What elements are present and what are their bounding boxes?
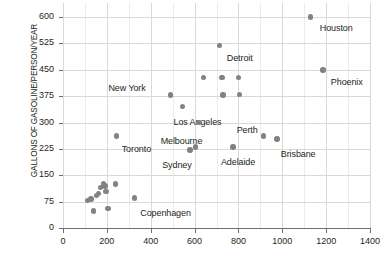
gridline-vertical bbox=[238, 3, 239, 228]
y-axis-tick bbox=[59, 70, 63, 71]
point-label-detroit: Detroit bbox=[227, 53, 253, 63]
data-point bbox=[105, 206, 110, 211]
data-point bbox=[220, 92, 225, 97]
y-axis-tick-label: 375 bbox=[24, 90, 54, 100]
x-axis-tick-label: 1400 bbox=[350, 236, 385, 246]
y-axis-tick bbox=[59, 17, 63, 18]
plot-area bbox=[63, 3, 370, 228]
gridline-horizontal bbox=[63, 96, 370, 97]
gridline-vertical bbox=[195, 3, 196, 228]
data-point-perth bbox=[261, 133, 266, 138]
data-point-sydney bbox=[187, 147, 192, 152]
x-axis-tick-label: 400 bbox=[131, 236, 171, 246]
x-axis-tick bbox=[195, 229, 196, 233]
y-axis-tick-label: 600 bbox=[24, 11, 54, 21]
x-axis-tick bbox=[107, 229, 108, 233]
x-axis-tick-label: 0 bbox=[43, 236, 83, 246]
x-axis-tick bbox=[63, 229, 64, 233]
gridline-vertical bbox=[260, 3, 261, 228]
data-point bbox=[88, 196, 93, 201]
data-point bbox=[102, 183, 107, 188]
point-label-new-york: New York bbox=[108, 83, 145, 93]
y-axis-tick bbox=[59, 43, 63, 44]
y-axis-tick-label: 0 bbox=[24, 222, 54, 232]
data-point bbox=[196, 120, 201, 125]
data-point-toronto bbox=[114, 133, 119, 138]
data-point bbox=[219, 75, 224, 80]
x-axis-tick bbox=[370, 229, 371, 233]
x-axis-tick bbox=[326, 229, 327, 233]
point-label-toronto: Toronto bbox=[122, 144, 151, 154]
y-axis-tick bbox=[59, 123, 63, 124]
gridline-vertical bbox=[304, 3, 305, 228]
data-point-phoenix bbox=[320, 67, 325, 72]
point-label-brisbane: Brisbane bbox=[281, 149, 316, 159]
data-point bbox=[113, 181, 118, 186]
gridline-vertical bbox=[85, 3, 86, 228]
x-axis-tick bbox=[238, 229, 239, 233]
x-axis-tick-label: 200 bbox=[87, 236, 127, 246]
gridline-vertical bbox=[173, 3, 174, 228]
point-label-perth: Perth bbox=[237, 125, 258, 135]
x-axis-tick-label: 600 bbox=[175, 236, 215, 246]
point-label-phoenix: Phoenix bbox=[331, 77, 363, 87]
gridline-vertical bbox=[63, 3, 64, 228]
gridline-horizontal bbox=[63, 175, 370, 176]
y-axis-tick-label: 300 bbox=[24, 117, 54, 127]
y-axis-tick bbox=[59, 175, 63, 176]
point-label-sydney: Sydney bbox=[162, 160, 191, 170]
gridline-vertical bbox=[151, 3, 152, 228]
y-axis-tick bbox=[59, 149, 63, 150]
data-point-new-york bbox=[168, 92, 173, 97]
x-axis-line bbox=[63, 228, 371, 229]
y-axis-tick-label: 225 bbox=[24, 143, 54, 153]
point-label-houston: Houston bbox=[320, 23, 353, 33]
data-point-adelaide bbox=[230, 144, 235, 149]
y-axis-tick-label: 150 bbox=[24, 169, 54, 179]
gridline-horizontal bbox=[63, 17, 370, 18]
data-point-copenhagen bbox=[132, 195, 137, 200]
x-axis-tick-label: 1200 bbox=[306, 236, 346, 246]
x-axis-tick bbox=[282, 229, 283, 233]
gridline-vertical bbox=[370, 3, 371, 228]
gridline-vertical bbox=[348, 3, 349, 228]
gridline-horizontal bbox=[63, 202, 370, 203]
y-axis-tick bbox=[59, 96, 63, 97]
y-axis-tick-label: 75 bbox=[24, 196, 54, 206]
x-axis-tick bbox=[151, 229, 152, 233]
gridline-vertical bbox=[107, 3, 108, 228]
y-axis-tick bbox=[59, 202, 63, 203]
y-axis-tick-label: 525 bbox=[24, 37, 54, 47]
data-point-brisbane bbox=[274, 136, 279, 141]
y-axis-tick-label: 450 bbox=[24, 64, 54, 74]
x-axis-tick-label: 1000 bbox=[262, 236, 302, 246]
point-label-copenhagen: Copenhagen bbox=[140, 208, 191, 218]
gridline-vertical bbox=[217, 3, 218, 228]
gridline-vertical bbox=[326, 3, 327, 228]
point-label-adelaide: Adelaide bbox=[221, 157, 255, 167]
x-axis-tick-label: 800 bbox=[218, 236, 258, 246]
y-axis-tick bbox=[59, 228, 63, 229]
gridline-horizontal bbox=[63, 149, 370, 150]
point-label-melbourne: Melbourne bbox=[161, 136, 203, 146]
gridline-vertical bbox=[129, 3, 130, 228]
gridline-vertical bbox=[282, 3, 283, 228]
